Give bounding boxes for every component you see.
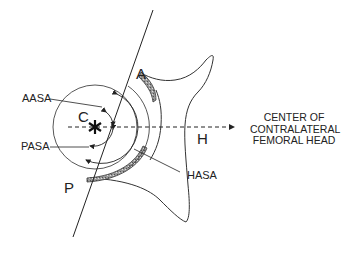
label-c: C: [78, 109, 89, 124]
target-line-1: CENTER OF: [250, 112, 338, 124]
label-hasa: HASA: [187, 170, 217, 181]
contralateral-head-label: CENTER OF CONTRALATERAL FEMORAL HEAD: [250, 112, 338, 147]
label-p: P: [64, 180, 74, 195]
label-aasa: AASA: [22, 93, 51, 104]
label-h: H: [197, 131, 208, 146]
label-pasa: PASA: [21, 141, 50, 152]
label-a: A: [136, 66, 146, 81]
target-line-3: FEMORAL HEAD: [250, 135, 338, 147]
